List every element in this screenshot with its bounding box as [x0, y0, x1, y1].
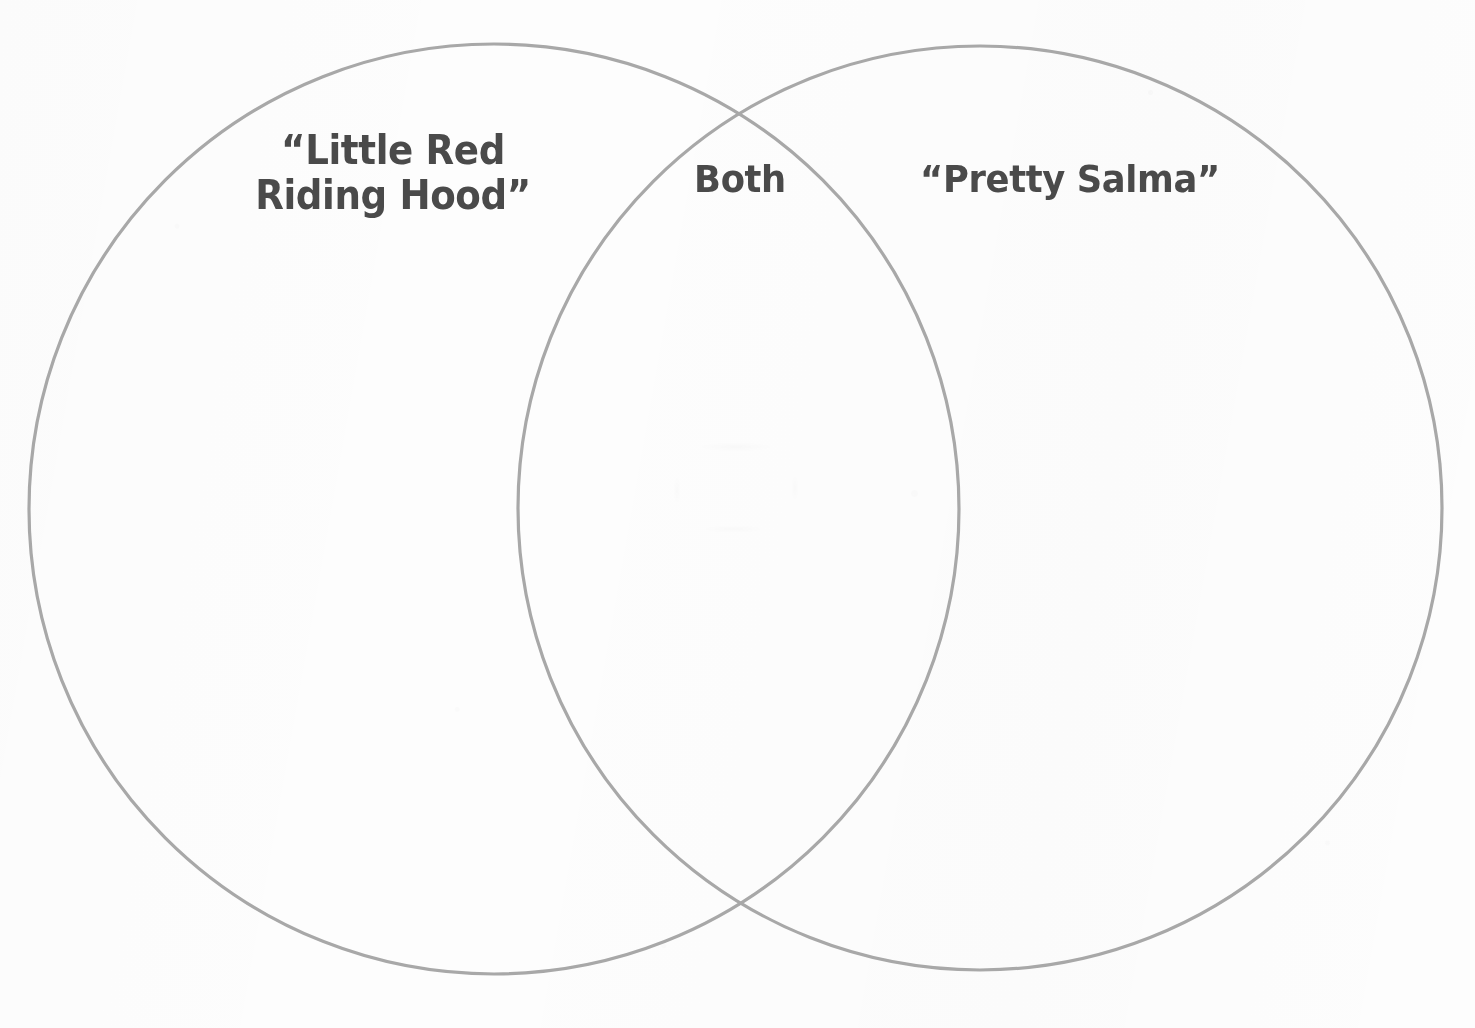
venn-label-both: Both — [628, 158, 851, 201]
venn-diagram-page: “Little Red Riding Hood” Both “Pretty Sa… — [0, 0, 1475, 1028]
venn-label-right: “Pretty Salma” — [851, 158, 1288, 201]
venn-label-left: “Little Red Riding Hood” — [174, 128, 611, 218]
